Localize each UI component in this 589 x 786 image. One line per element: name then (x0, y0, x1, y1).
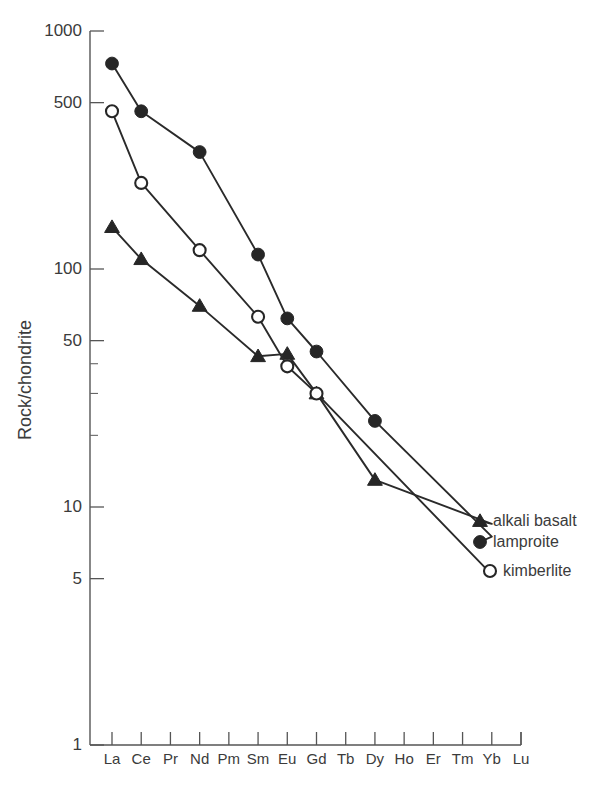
legend-label: kimberlite (503, 562, 572, 579)
x-tick-label: Lu (513, 750, 530, 767)
x-axis: LaCePrNdPmSmEuGdTbDyHoErTmYbLu (90, 732, 529, 767)
x-tick-label: Yb (483, 750, 501, 767)
data-point (281, 312, 294, 325)
legend-item: lamproite (474, 533, 559, 550)
series-line (112, 64, 492, 543)
x-tick-label: Pr (163, 750, 178, 767)
series-kimberlite (106, 105, 492, 574)
x-tick-label: La (104, 750, 121, 767)
data-point (106, 105, 118, 117)
x-tick-label: Nd (190, 750, 209, 767)
series-line (112, 111, 492, 574)
x-tick-label: Tb (337, 750, 355, 767)
y-tick-label: 500 (54, 93, 82, 112)
data-point (252, 248, 265, 261)
legend-marker (474, 536, 487, 549)
y-tick-label: 5 (73, 569, 82, 588)
x-tick-label: Gd (306, 750, 326, 767)
legend-label: alkali basalt (493, 512, 577, 529)
data-point (105, 220, 120, 233)
data-point (310, 345, 323, 358)
legend-marker (484, 565, 496, 577)
y-axis: 1000500100501051 (44, 21, 104, 754)
data-point (106, 57, 119, 70)
ree-chondrite-chart: 1000500100501051 LaCePrNdPmSmEuGdTbDyHoE… (0, 0, 589, 786)
y-tick-label: 10 (63, 497, 82, 516)
x-tick-label: Dy (366, 750, 385, 767)
data-point (135, 177, 147, 189)
data-point (281, 360, 293, 372)
data-series-group (105, 57, 492, 574)
chart-canvas: 1000500100501051 LaCePrNdPmSmEuGdTbDyHoE… (0, 0, 589, 786)
x-tick-label: Er (426, 750, 441, 767)
x-tick-label: Sm (247, 750, 270, 767)
data-point (194, 244, 206, 256)
data-point (369, 415, 382, 428)
data-point (192, 299, 207, 312)
y-tick-label: 1000 (44, 21, 82, 40)
x-tick-label: Tm (452, 750, 474, 767)
x-tick-label: Ce (132, 750, 151, 767)
series-lamproite (106, 57, 492, 542)
y-axis-title: Rock/chondrite (15, 320, 35, 440)
data-point (368, 473, 383, 486)
x-tick-label: Eu (278, 750, 296, 767)
legend-item: alkali basalt (473, 512, 578, 529)
legend-item: kimberlite (484, 562, 572, 579)
data-point (193, 146, 206, 159)
data-point (252, 311, 264, 323)
y-tick-label: 1 (73, 735, 82, 754)
legend-label: lamproite (493, 533, 559, 550)
y-tick-label: 100 (54, 259, 82, 278)
y-tick-label: 50 (63, 331, 82, 350)
data-point (135, 105, 148, 118)
x-tick-label: Ho (395, 750, 414, 767)
x-tick-label: Pm (218, 750, 241, 767)
data-point (311, 387, 323, 399)
